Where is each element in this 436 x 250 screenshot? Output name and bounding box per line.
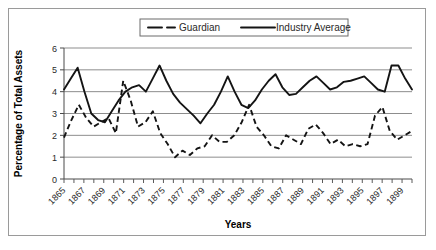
x-tick-label: 1877 — [165, 185, 186, 206]
x-tick-label: 1891 — [305, 185, 326, 206]
x-tick-label: 1875 — [146, 185, 167, 206]
y-tick-label: 5 — [52, 65, 57, 75]
x-tick-label: 1887 — [265, 185, 286, 206]
x-tick-label: 1883 — [225, 185, 246, 206]
legend-label-industry-average: Industry Average — [276, 22, 351, 33]
x-tick-label: 1895 — [344, 185, 365, 206]
legend-label-guardian: Guardian — [179, 22, 220, 33]
series-line-guardian — [64, 81, 412, 157]
line-chart: 0123456186518671869187118731875187718791… — [9, 9, 425, 235]
y-axis-title: Percentage of Total Assets — [13, 49, 24, 177]
x-tick-label: 1899 — [384, 185, 405, 206]
x-tick-label: 1869 — [86, 185, 107, 206]
x-tick-label: 1881 — [205, 185, 226, 206]
y-tick-label: 6 — [52, 44, 57, 54]
chart-frame: 0123456186518671869187118731875187718791… — [8, 8, 426, 236]
x-tick-label: 1873 — [126, 185, 147, 206]
series-line-industry-average — [64, 65, 412, 123]
x-tick-label: 1893 — [325, 185, 346, 206]
x-axis-title: Years — [225, 219, 252, 230]
x-tick-label: 1879 — [185, 185, 206, 206]
y-tick-label: 4 — [52, 87, 57, 97]
y-tick-label: 2 — [52, 131, 57, 141]
y-tick-label: 1 — [52, 153, 57, 163]
x-tick-label: 1885 — [245, 185, 266, 206]
x-tick-label: 1871 — [106, 185, 127, 206]
x-tick-label: 1865 — [46, 185, 67, 206]
x-tick-label: 1889 — [285, 185, 306, 206]
x-tick-label: 1867 — [66, 185, 87, 206]
y-tick-label: 3 — [52, 109, 57, 119]
x-tick-label: 1897 — [364, 185, 385, 206]
y-tick-label: 0 — [52, 175, 57, 185]
